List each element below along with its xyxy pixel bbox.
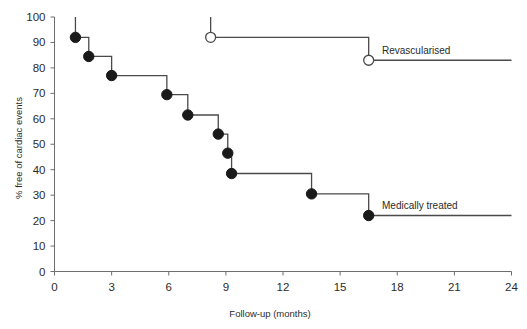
chart-canvas: 0102030405060708090100 03691215182124 % … [0, 0, 527, 329]
y-axis: 0102030405060708090100 [26, 11, 54, 278]
x-tick-label: 3 [108, 281, 114, 293]
y-axis-tick-labels: 0102030405060708090100 [26, 11, 45, 278]
y-tick-label: 80 [33, 62, 46, 74]
data-point-filled [363, 210, 373, 220]
series-1 [206, 17, 512, 65]
x-tick-label: 0 [51, 281, 57, 293]
data-point-filled [183, 110, 193, 120]
y-tick-label: 60 [33, 113, 46, 125]
data-point-filled [70, 32, 80, 42]
series-label-1: Revascularised [382, 45, 450, 56]
x-tick-label: 9 [223, 281, 229, 293]
y-tick-label: 0 [39, 266, 45, 278]
y-tick-label: 50 [33, 138, 46, 150]
y-tick-label: 30 [33, 189, 46, 201]
data-point-filled [223, 148, 233, 158]
y-tick-label: 40 [33, 164, 46, 176]
x-axis-title: Follow-up (months) [229, 308, 310, 319]
x-tick-label: 6 [166, 281, 172, 293]
x-tick-label: 15 [334, 281, 347, 293]
series-annotation-labels: RevascularisedMedically treated [382, 45, 458, 211]
series-label-2: Medically treated [382, 200, 458, 211]
data-point-filled [226, 168, 236, 178]
x-axis-tick-labels: 03691215182124 [51, 281, 518, 293]
data-point-filled [106, 70, 116, 80]
x-axis: 03691215182124 [51, 272, 518, 293]
data-point-open [206, 32, 216, 42]
y-tick-label: 100 [26, 11, 45, 23]
data-point-open [364, 55, 374, 65]
x-tick-label: 24 [505, 281, 518, 293]
data-point-filled [306, 189, 316, 199]
step-curve [75, 37, 511, 215]
x-tick-label: 18 [391, 281, 404, 293]
y-tick-label: 20 [33, 215, 46, 227]
x-tick-label: 21 [448, 281, 461, 293]
data-point-filled [213, 129, 223, 139]
y-tick-label: 90 [33, 36, 46, 48]
x-tick-label: 12 [277, 281, 290, 293]
step-curve [211, 37, 512, 60]
y-tick-label: 70 [33, 87, 46, 99]
y-axis-ticks [51, 17, 55, 272]
y-tick-label: 10 [33, 240, 46, 252]
y-axis-title: % free of cardiac events [13, 97, 24, 199]
kaplan-meier-chart: 0102030405060708090100 03691215182124 % … [0, 0, 527, 329]
x-axis-ticks [55, 272, 512, 276]
data-point-filled [84, 51, 94, 61]
data-point-filled [162, 89, 172, 99]
